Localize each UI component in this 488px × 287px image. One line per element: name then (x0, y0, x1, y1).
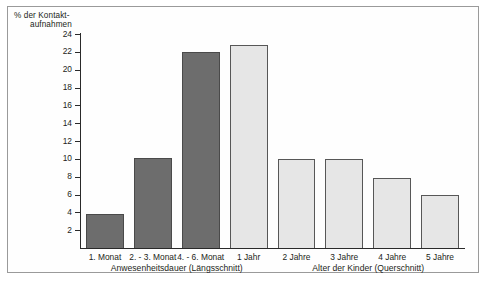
x-axis-group-label: Anwesenheitsdauer (Längsschnitt) (67, 264, 287, 273)
plot-area: 24681012141618202224 1. Monat2. - 3. Mon… (8, 7, 480, 274)
x-axis-group-label: Alter der Kinder (Querschnitt) (258, 264, 478, 273)
bar (134, 158, 172, 249)
bar (182, 52, 220, 249)
bars-layer (8, 7, 480, 249)
figure-frame: % der Kontakt-aufnahmen 2468101214161820… (7, 6, 479, 273)
bar (86, 214, 124, 249)
bar (373, 178, 411, 249)
x-axis-line (80, 248, 465, 249)
bar (421, 195, 459, 249)
x-axis-category-label: 5 Jahre (395, 253, 485, 262)
bar (278, 159, 316, 249)
bar (325, 159, 363, 249)
bar (230, 45, 268, 249)
